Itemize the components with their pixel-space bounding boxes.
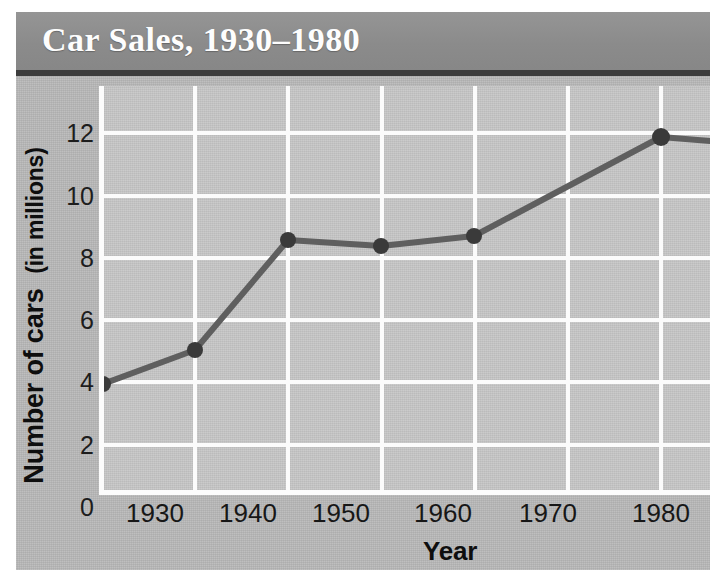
data-point-1980 [652,128,670,146]
y-tick-label-2: 2 [52,433,94,458]
y-tick-label-0: 0 [52,495,94,520]
x-tick-label-1970: 1970 [519,500,577,526]
data-point-1940 [187,342,203,358]
y-axis-title-main: Number of cars [19,288,49,483]
x-tick-label-1980: 1980 [632,500,690,526]
title-band: Car Sales, 1930–1980 [16,12,710,70]
y-tick-label-6: 6 [52,308,94,333]
x-axis-title-wrap: Year [0,536,720,567]
x-axis-line [99,490,710,495]
x-tick-label-1960: 1960 [414,500,472,526]
y-tick-label-8: 8 [52,246,94,271]
y-tick-label-4: 4 [52,370,94,395]
data-point-1970 [466,228,482,244]
y-tick-label-10: 10 [52,184,94,209]
x-tick-label-1940: 1940 [219,500,277,526]
series-car-sales [103,86,710,491]
y-axis-line [99,86,104,495]
y-axis-title-space [19,274,49,289]
data-point-1960 [373,238,389,254]
x-tick-label-1930: 1930 [126,500,184,526]
y-tick-label-12: 12 [52,121,94,146]
y-axis-title-sub: (in millions) [22,147,48,273]
chart-figure: Car Sales, 1930–1980 [0,0,720,581]
y-tick-labels: 12 10 8 6 4 2 0 [50,0,94,581]
y-axis-title: Number of cars (in millions) [19,116,50,516]
x-axis-title: Year [423,536,477,566]
data-point-1950 [280,232,296,248]
x-tick-label-1950: 1950 [312,500,370,526]
plot-area [103,86,710,491]
